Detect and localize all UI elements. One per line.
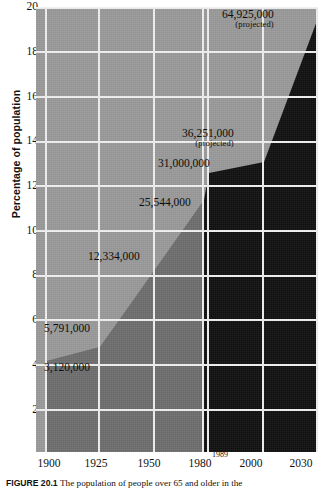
figure-container: Percentage of population 20 18 16 14 12 … <box>0 0 326 488</box>
gridline-10 <box>36 230 318 232</box>
column-separator-1989-2000 <box>262 7 264 452</box>
value-label-1950: 12,334,000 <box>88 250 140 262</box>
y-tick-4: 4 <box>4 359 38 371</box>
column-separator-1900-left <box>45 7 47 452</box>
value-label-2000: 36,251,000 (projected) <box>182 127 234 148</box>
gridline-14 <box>36 141 318 143</box>
column-separator-2030-right <box>316 7 318 452</box>
y-tick-20: 20 <box>4 1 38 13</box>
y-tick-8: 8 <box>4 269 38 281</box>
y-tick-12: 12 <box>4 180 38 192</box>
figure-caption: FIGURE 20.1 The population of people ove… <box>6 478 322 488</box>
value-label-2000-note: (projected) <box>182 139 234 148</box>
y-axis-label: Percentage of population <box>10 54 22 254</box>
column-separator-1900-1925 <box>98 7 100 452</box>
gridline-20 <box>36 7 318 9</box>
gridline-18 <box>36 51 318 53</box>
y-tick-16: 16 <box>4 91 38 103</box>
gridline-8 <box>36 275 318 277</box>
value-label-2030: 64,925,000 (projected) <box>222 8 274 29</box>
value-label-1925: 5,791,000 <box>44 322 90 334</box>
x-tick-1900: 1900 <box>25 457 73 469</box>
x-tick-1925: 1925 <box>72 457 120 469</box>
gridline-6 <box>36 319 318 321</box>
x-tick-1950: 1950 <box>125 457 173 469</box>
column-separator-1980-1989 <box>207 7 209 452</box>
y-tick-2: 2 <box>4 404 38 416</box>
x-tick-2030: 2030 <box>277 457 325 469</box>
x-tick-2000: 2000 <box>227 457 275 469</box>
gridline-2 <box>36 409 318 411</box>
gridline-16 <box>36 96 318 98</box>
figure-caption-text: The population of people over 65 and old… <box>60 478 242 488</box>
y-tick-6: 6 <box>4 314 38 326</box>
plot-area <box>36 7 318 452</box>
figure-caption-number: FIGURE 20.1 <box>6 478 58 488</box>
y-tick-18: 18 <box>4 46 38 58</box>
value-label-1989: 31,000,000 <box>158 157 210 169</box>
value-label-1900: 3,120,000 <box>44 361 90 373</box>
y-tick-14: 14 <box>4 135 38 147</box>
value-label-1980: 25,544,000 <box>139 196 191 208</box>
y-tick-10: 10 <box>4 225 38 237</box>
gridline-12 <box>36 185 318 187</box>
column-separator-1925-1950 <box>153 7 155 452</box>
value-label-2030-note: (projected) <box>222 20 274 29</box>
column-separator-1950-1980 <box>202 7 204 452</box>
